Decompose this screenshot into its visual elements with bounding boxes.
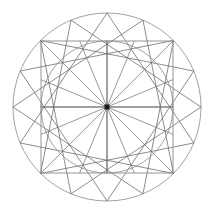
geometric-figure-canvas — [0, 0, 212, 213]
center-dot — [105, 105, 110, 110]
center-dot-group — [105, 105, 110, 110]
geometry-svg — [0, 0, 212, 213]
